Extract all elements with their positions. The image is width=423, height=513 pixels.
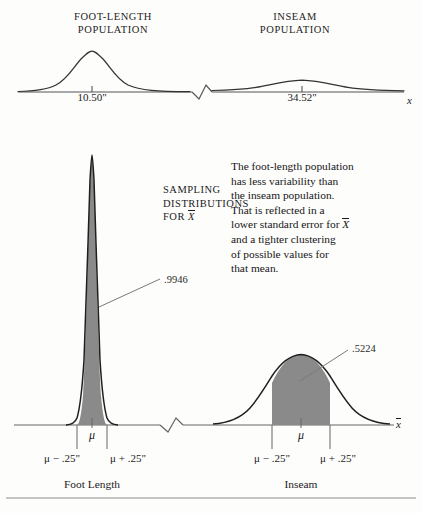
annotation-line-1: The foot-length population — [231, 159, 403, 174]
foot-length-probability-leader-line — [99, 279, 160, 307]
annotation-line-8: that mean. — [231, 261, 403, 276]
population-axis-label: x — [407, 94, 412, 106]
inseam-upper-bound-label: μ + .25" — [300, 452, 376, 464]
inseam-mean-symbol: μ — [286, 428, 316, 443]
foot-length-lower-bound-label: μ − .25" — [24, 452, 100, 464]
foot-length-population-mean-label: 10.50" — [50, 91, 134, 103]
sampling-axis — [14, 418, 394, 432]
annotation-text: The foot-length population has less vari… — [231, 159, 403, 276]
inseam-population-mean-label: 34.52" — [260, 91, 344, 103]
annotation-line-5: lower standard error for X — [231, 217, 403, 232]
annotation-xbar-symbol: X — [342, 217, 349, 232]
population-axis-break-zigzag — [192, 85, 212, 99]
sampling-axis-label: x — [396, 418, 401, 430]
foot-length-population-curve — [18, 51, 190, 92]
inseam-probability-label: .5224 — [352, 343, 376, 354]
foot-length-probability-label: .9946 — [164, 274, 188, 285]
inseam-lower-bound-label: μ − .25" — [234, 452, 310, 464]
foot-length-mean-symbol: μ — [77, 428, 107, 443]
inseam-group-name: Inseam — [246, 478, 356, 490]
annotation-line-4: That is reflected in a — [231, 203, 403, 218]
annotation-line-7: of possible values for — [231, 247, 403, 262]
annotation-line-2: has less variability than — [231, 174, 403, 189]
sampling-distributions-label-symbol: X — [188, 210, 195, 224]
statistics-figure: FOOT-LENGTH POPULATION INSEAM POPULATION — [0, 0, 423, 513]
foot-length-upper-bound-label: μ + .25" — [90, 452, 166, 464]
sampling-axis-label-text: x — [396, 418, 401, 430]
sampling-axis-break-zigzag — [160, 418, 183, 432]
inseam-population-curve — [212, 80, 404, 91]
annotation-line-3: the inseam population. — [231, 188, 403, 203]
annotation-line-5-text: lower standard error for — [231, 218, 339, 230]
annotation-line-6: and a tighter clustering — [231, 232, 403, 247]
foot-length-group-name: Foot Length — [37, 478, 147, 490]
